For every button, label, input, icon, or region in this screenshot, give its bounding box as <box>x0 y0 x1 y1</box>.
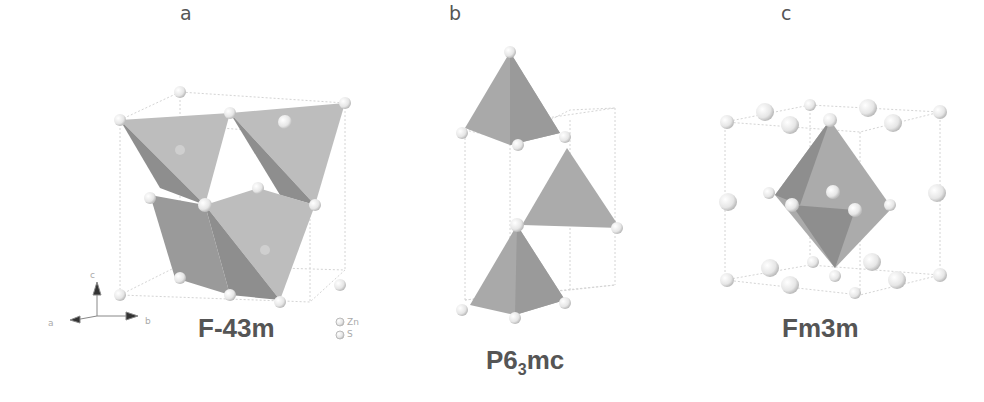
legend: Zn S <box>347 316 359 340</box>
space-group-b-sub: 3 <box>518 361 527 378</box>
axis-b-arrow <box>126 312 138 320</box>
structure-b-wurtzite <box>456 46 623 324</box>
axis-label-b: b <box>145 316 151 326</box>
legend-s-icon <box>336 331 344 339</box>
structure-a-zincblende <box>114 86 351 308</box>
structure-c-rocksalt <box>719 99 947 299</box>
space-group-c: Fm3m <box>782 313 859 344</box>
space-group-a: F-43m <box>198 313 275 344</box>
axis-label-c: c <box>90 270 95 280</box>
tetrahedron-b2 <box>522 148 620 228</box>
axis-label-a: a <box>48 318 54 328</box>
legend-item-zn: Zn <box>347 316 359 328</box>
axes-indicator <box>70 282 138 323</box>
axis-a-arrow <box>70 316 80 323</box>
space-group-b: P63mc <box>486 345 564 379</box>
space-group-b-main: P6 <box>486 345 518 375</box>
space-group-b-tail: mc <box>527 345 565 375</box>
axis-c-arrow <box>93 282 101 295</box>
legend-item-s: S <box>347 328 359 340</box>
legend-zn-icon <box>336 318 344 326</box>
